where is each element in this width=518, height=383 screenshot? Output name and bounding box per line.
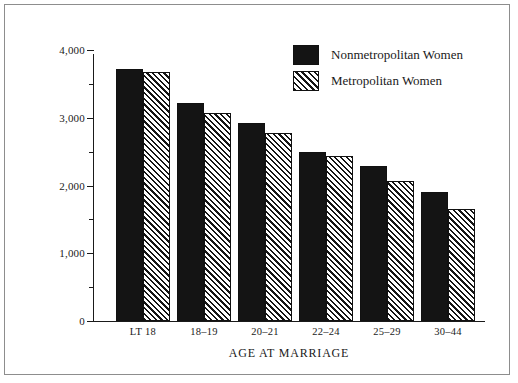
legend-label: Metropolitan Women <box>331 73 442 89</box>
x-axis-tick-label: 25–29 <box>373 326 401 337</box>
y-axis-tick-label: 2,000 <box>59 180 85 192</box>
bar-group <box>116 50 170 321</box>
bar-metropolitan <box>204 113 231 321</box>
legend-label: Nonmetropolitan Women <box>331 47 463 63</box>
y-axis-tick-label: 0 <box>79 315 85 327</box>
x-axis-tick-label: 30–44 <box>434 326 462 337</box>
bar-metropolitan <box>143 72 170 321</box>
chart-legend: Nonmetropolitan WomenMetropolitan Women <box>293 42 463 94</box>
x-axis-tick-label: 22–24 <box>312 326 340 337</box>
bar-nonmetropolitan <box>177 103 204 321</box>
bar-nonmetropolitan <box>299 152 326 321</box>
solid-swatch <box>293 45 319 65</box>
hatch-swatch <box>293 71 319 91</box>
bar-nonmetropolitan <box>421 192 448 321</box>
bar-metropolitan <box>387 181 414 321</box>
bar-metropolitan <box>265 133 292 321</box>
x-axis-tick-label: 20–21 <box>251 326 279 337</box>
legend-item: Metropolitan Women <box>293 68 463 94</box>
bar-nonmetropolitan <box>360 166 387 321</box>
bar-nonmetropolitan <box>238 123 265 321</box>
bar-metropolitan <box>326 156 353 321</box>
bar-metropolitan <box>448 209 475 321</box>
figure-frame: CHILDREN EVER BORN PER 1,000 WOMEN 01,00… <box>4 4 510 375</box>
x-axis-tick-label: LT 18 <box>130 326 156 337</box>
bar-group <box>177 50 231 321</box>
x-axis-tick-label: 18–19 <box>190 326 218 337</box>
bar-group <box>238 50 292 321</box>
legend-item: Nonmetropolitan Women <box>293 42 463 68</box>
bar-nonmetropolitan <box>116 69 143 321</box>
y-axis-tick-label: 1,000 <box>59 247 85 259</box>
y-axis-tick-label: 3,000 <box>59 112 85 124</box>
y-axis-tick-label: 4,000 <box>59 44 85 56</box>
x-axis-title: AGE AT MARRIAGE <box>93 346 485 361</box>
